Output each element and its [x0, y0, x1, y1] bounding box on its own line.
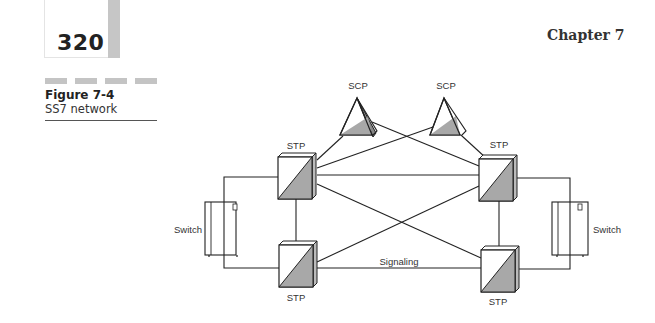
switch-left-label: Switch: [174, 224, 202, 235]
stp-bottom-right-label: STP: [489, 296, 507, 307]
scp-right-label: SCP: [436, 80, 456, 91]
stp-bottom-left: STP: [279, 241, 317, 303]
link-switch-left-stp-top-left: [224, 177, 278, 203]
stp-top-right-label: STP: [490, 139, 508, 150]
link-switch-right-stp-bottom-right: [517, 255, 570, 269]
switch-left: Switch: [174, 202, 237, 257]
scp-left-label: SCP: [348, 80, 368, 91]
switch-right-label: Switch: [593, 224, 621, 235]
switch-right: Switch: [552, 202, 621, 257]
stp-bottom-right: STP: [481, 246, 519, 307]
stp-top-right: STP: [479, 139, 517, 201]
stp-top-left: STP: [278, 140, 316, 199]
stp-bottom-left-label: STP: [287, 292, 305, 303]
link-switch-right-stp-top-right: [517, 178, 570, 203]
stp-top-left-label: STP: [287, 140, 305, 151]
link-switch-left-stp-bottom-left: [224, 256, 279, 268]
scp-right: SCP: [430, 80, 466, 136]
scp-left: SCP: [340, 80, 377, 137]
ss7-network-diagram: SCP SCP STP STP STP STP: [0, 0, 655, 323]
signaling-label: Signaling: [379, 256, 418, 267]
